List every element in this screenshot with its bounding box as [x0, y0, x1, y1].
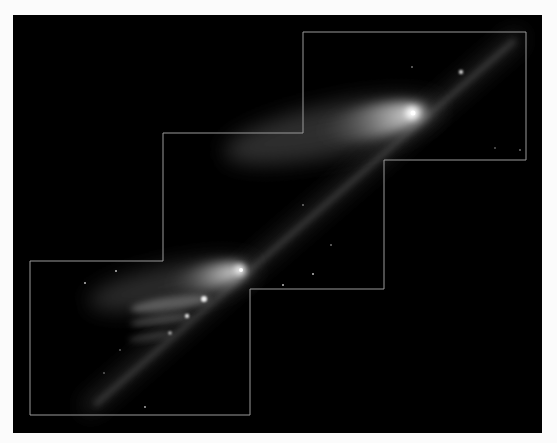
comet-upper: [219, 82, 445, 179]
astro-image: [0, 0, 557, 443]
image-frame: comet fragment chain: [0, 0, 557, 443]
fragment-upper-small: [459, 70, 463, 74]
comet-lower: [84, 248, 259, 322]
